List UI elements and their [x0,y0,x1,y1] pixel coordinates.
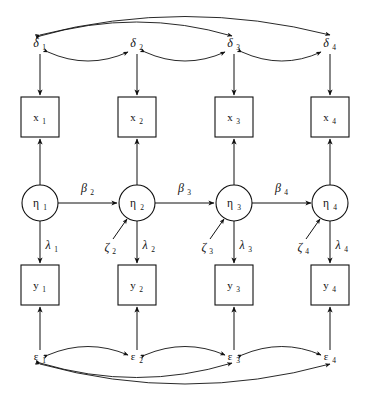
y-box-2 [118,265,156,305]
lambda-label-4: λ 4 [334,238,348,254]
eta-subscript-3: 3 [237,203,241,212]
zeta-subscript-3: 3 [209,247,213,256]
eta-subscript-2: 2 [140,203,144,212]
epsilon-label-4: ε 4 [324,350,336,365]
beta-symbol-4: β [274,181,281,195]
eta-circle-2 [119,185,155,221]
eta-circle-1 [22,185,58,221]
beta-label-2: β 2 [80,181,94,197]
epsilon-symbol-3: ε [228,350,233,362]
x-symbol-2: x [130,111,136,123]
beta-label-3: β 3 [177,181,191,197]
x-box-1 [21,97,59,137]
x-subscript-3: 3 [236,117,240,126]
beta-symbol-2: β [80,181,87,195]
eta-subscript-4: 4 [333,203,337,212]
eps-corr-2-3 [145,347,225,356]
epsilon-symbol-4: ε [324,350,329,362]
beta-paths: β 2 β 3 β 4 [58,181,311,203]
beta-subscript-2: 2 [90,188,94,197]
eta-node-3: η 3 [216,185,252,221]
delta-symbol-1: δ [33,36,39,50]
delta-to-x-arrows [40,54,330,95]
x-symbol-1: x [33,111,39,123]
zeta-symbol-3: ζ [202,240,208,254]
arrow-zeta-2 [113,219,127,239]
eta-symbol-4: η [323,197,329,210]
delta-subscript-2: 2 [139,43,143,52]
delta-symbol-2: δ [130,36,136,50]
y-node-4: y 4 [311,265,349,305]
delta-corr-1-3 [40,22,232,36]
eps-corr-1-3 [40,363,232,378]
epsilon-symbol-2: ε [131,350,136,362]
epsilon-label-3: ε 3 [228,350,240,365]
y-symbol-1: y [33,279,39,291]
eta-subscript-1: 1 [43,203,47,212]
y-subscript-4: 4 [332,285,336,294]
eta-symbol-3: η [227,197,233,210]
delta-corr-1-2 [48,52,128,61]
x-node-2: x 2 [118,97,156,137]
y-subscript-1: 1 [42,285,46,294]
eta-symbol-2: η [130,197,136,210]
zeta-subscript-2: 2 [112,247,116,256]
zeta-label-4: ζ 4 [298,240,310,256]
epsilon-subscript-2: 2 [139,356,143,365]
epsilon-correlation-curves [40,347,330,385]
x-box-3 [215,97,253,137]
epsilon-label-1: ε 1 [34,350,46,365]
eta-circle-3 [216,185,252,221]
x-subscript-2: 2 [139,117,143,126]
epsilon-symbol-1: ε [34,350,39,362]
beta-label-4: β 4 [274,181,288,197]
diagram-canvas: δ 1 δ 2 δ 3 δ 4 [0,0,366,398]
x-indicator-row: x 1 x 2 x 3 x 4 [21,97,349,137]
epsilon-to-y-arrows [40,307,330,350]
x-symbol-4: x [323,111,329,123]
delta-label-3: δ 3 [227,36,240,52]
y-box-1 [21,265,59,305]
x-node-4: x 4 [311,97,349,137]
zeta-symbol-4: ζ [298,240,304,254]
eta-node-1: η 1 [22,185,58,221]
lambda-subscript-4: 4 [344,245,348,254]
zeta-subscript-4: 4 [305,247,309,256]
eta-symbol-1: η [33,197,39,210]
lambda-symbol-2: λ [141,238,147,252]
delta-symbol-3: δ [227,36,233,50]
sem-path-diagram: δ 1 δ 2 δ 3 δ 4 [0,0,366,398]
zeta-label-3: ζ 3 [202,240,214,256]
eta-node-4: η 4 [312,185,348,221]
zeta-symbol-2: ζ [105,240,111,254]
lambda-subscript-3: 3 [248,245,252,254]
beta-symbol-3: β [177,181,184,195]
delta-row: δ 1 δ 2 δ 3 δ 4 [33,36,336,52]
x-box-4 [311,97,349,137]
epsilon-subscript-1: 1 [42,356,46,365]
epsilon-row: ε 1 ε 2 ε 3 ε 4 [34,350,336,365]
lambda-label-1: λ 1 [44,238,58,254]
eps-corr-1-2 [48,347,128,356]
delta-corr-2-3 [145,52,225,61]
y-node-3: y 3 [215,265,253,305]
y-node-1: y 1 [21,265,59,305]
lambda-subscript-2: 2 [151,245,155,254]
epsilon-subscript-3: 3 [236,356,240,365]
arrow-zeta-4 [306,219,320,239]
delta-subscript-3: 3 [236,43,240,52]
eta-node-2: η 2 [119,185,155,221]
delta-subscript-1: 1 [42,43,46,52]
y-symbol-2: y [130,279,136,291]
delta-label-2: δ 2 [130,36,143,52]
lambda-subscript-1: 1 [54,245,58,254]
lambda-symbol-4: λ [334,238,340,252]
x-box-2 [118,97,156,137]
epsilon-label-2: ε 2 [131,350,143,365]
x-node-1: x 1 [21,97,59,137]
y-subscript-2: 2 [139,285,143,294]
y-symbol-4: y [323,279,329,291]
eta-to-x-arrows [40,139,330,185]
beta-subscript-3: 3 [187,188,191,197]
delta-corr-3-4 [242,52,321,61]
